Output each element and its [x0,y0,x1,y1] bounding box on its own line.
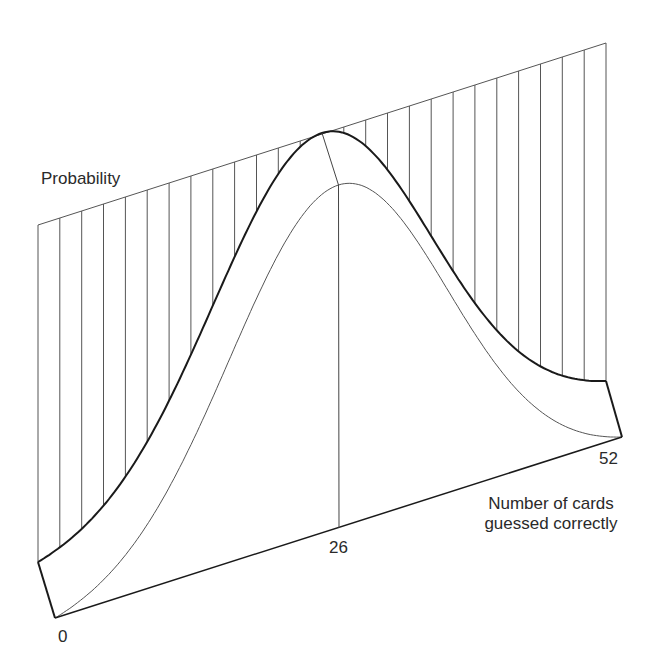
tick-label-52: 52 [599,449,618,469]
x-axis-label-line2: guessed correctly [466,514,636,534]
y-axis-label: Probability [41,169,120,189]
hatch-lines [38,43,606,562]
x-axis-label: Number of cards guessed correctly [466,494,636,534]
left-thickness-edge [38,562,55,618]
x-axis-label-line1: Number of cards [466,494,636,514]
mean-vertical-line [339,185,340,528]
peak-connector-line [322,133,339,185]
tick-label-0: 0 [58,627,67,647]
tick-label-26: 26 [329,538,348,558]
distribution-diagram [0,0,662,666]
right-thickness-edge [606,381,622,437]
